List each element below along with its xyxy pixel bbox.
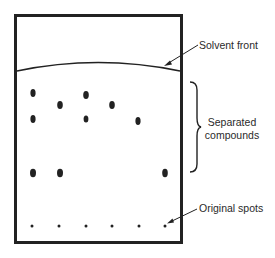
solvent-front-line	[17, 63, 180, 72]
origin-spot	[58, 225, 61, 228]
spot	[30, 89, 35, 97]
spot	[30, 169, 36, 177]
origin-spot	[31, 225, 34, 228]
origin-spot	[138, 225, 141, 228]
tlc-plate	[16, 16, 182, 243]
separated-spots	[30, 89, 168, 177]
separated-compounds-label-line2: compounds	[203, 130, 261, 141]
solvent-front-label: Solvent front	[199, 40, 258, 51]
spot	[162, 169, 168, 177]
spot	[109, 101, 115, 109]
original-spots	[31, 225, 167, 228]
spot	[83, 91, 89, 99]
spot	[57, 101, 63, 109]
origin-spot	[111, 225, 114, 228]
separated-compounds-label-line1: Separated	[205, 117, 259, 128]
original-spots-label: Original spots	[199, 203, 263, 214]
separated-compounds-brace-icon	[190, 82, 201, 172]
spot	[57, 169, 63, 177]
origin-spot	[164, 225, 167, 228]
origin-spot	[85, 225, 88, 228]
spot	[135, 117, 140, 125]
spot	[84, 115, 89, 122]
spot	[30, 115, 35, 123]
